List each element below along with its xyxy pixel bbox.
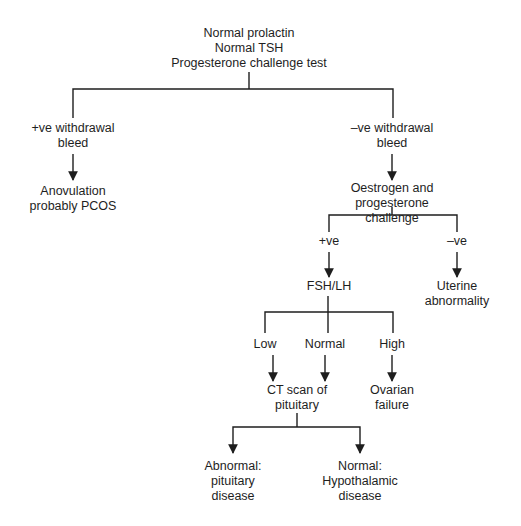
node-neg-withdrawal: –ve withdrawal bleed [351,121,434,151]
node-ep-negative: –ve [447,234,467,249]
arrow-to-pituitary-disease [233,427,297,453]
node-anovulation: Anovulation probably PCOS [30,184,117,214]
node-ovarian-failure: Ovarian failure [370,383,414,413]
node-pituitary-disease: Abnormal: pituitary disease [205,459,262,504]
arrow-to-hypothalamic [297,427,360,453]
node-oestrogen: Oestrogen and progesterone challenge [328,181,457,226]
node-pos-withdrawal: +ve withdrawal bleed [31,121,114,151]
fsh-lh-branch [265,312,393,333]
node-low: Low [254,337,277,352]
node-ep-positive: +ve [319,234,340,249]
flowchart-diagram: Normal prolactin Normal TSH Progesterone… [0,0,521,526]
connector-lines [0,0,521,526]
node-normal: Normal [305,337,345,352]
node-high: High [379,337,405,352]
root-branch [73,89,393,118]
node-root: Normal prolactin Normal TSH Progesterone… [171,26,327,71]
node-ct-scan: CT scan of pituitary [267,383,327,413]
node-hypothalamic-disease: Normal: Hypothalamic disease [322,459,398,504]
node-uterine-abnormality: Uterine abnormality [425,279,490,309]
node-fsh-lh: FSH/LH [307,279,351,294]
